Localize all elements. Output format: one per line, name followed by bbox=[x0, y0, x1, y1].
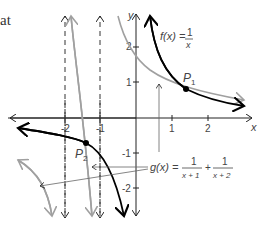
f-label-name: f(x) = bbox=[160, 30, 186, 42]
x-axis-label: x bbox=[250, 121, 257, 133]
g-label-num1: 1 bbox=[191, 156, 197, 167]
g-label-name: g(x) = bbox=[150, 161, 179, 173]
y-axis-label: y bbox=[127, 9, 135, 21]
f-label-den: x bbox=[185, 40, 191, 50]
x-tick-1: 1 bbox=[169, 123, 175, 134]
p1-label: P1 bbox=[183, 71, 196, 87]
f-label-num: 1 bbox=[187, 27, 193, 38]
graph: -2 -1 1 2 2 1 -1 -2 x y P1 P2 f(x) = 1 x bbox=[0, 0, 273, 232]
y-tick-1: 1 bbox=[126, 77, 132, 88]
g-label-den1: x + 1 bbox=[181, 171, 200, 180]
x-tick-neg2: -2 bbox=[61, 123, 70, 134]
g-label-plus: + bbox=[205, 162, 211, 173]
point-p1 bbox=[183, 86, 189, 92]
y-tick-neg2: -2 bbox=[122, 183, 131, 194]
point-p2 bbox=[83, 140, 89, 146]
y-tick-neg1: -1 bbox=[122, 148, 131, 159]
g-label-num2: 1 bbox=[222, 156, 228, 167]
x-tick-2: 2 bbox=[205, 123, 211, 134]
x-tick-neg1: -1 bbox=[96, 123, 105, 134]
g-label-den2: x + 2 bbox=[212, 171, 231, 180]
